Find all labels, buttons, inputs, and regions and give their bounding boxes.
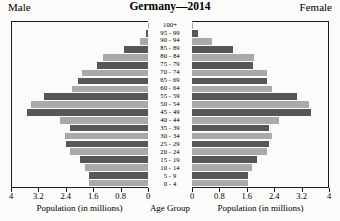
pyramid-row — [12, 101, 148, 109]
age-group-axis: 100+95 - 9990 - 9485 - 8980 - 8475 - 797… — [148, 21, 192, 188]
pyramid-row — [12, 140, 148, 148]
female-bar-10-14 — [192, 164, 252, 171]
axis-tick-label: 1.6 — [88, 191, 99, 201]
pyramid-row — [12, 108, 148, 116]
axis-tick-label: 2.4 — [269, 191, 280, 201]
female-bar-75-79 — [192, 62, 253, 69]
axis-tick-label: 0 — [146, 191, 150, 201]
female-bar-60-64 — [192, 86, 272, 93]
population-pyramid-chart: Male Germany—2014 Female 100+95 - 9990 -… — [0, 0, 340, 221]
male-bar-10-14 — [85, 164, 148, 171]
axis-tick-label: 0.8 — [214, 191, 225, 201]
pyramid-row — [12, 148, 148, 156]
female-bar-35-39 — [192, 125, 269, 132]
chart-title: Germany—2014 — [0, 0, 340, 12]
pyramid-row — [192, 93, 328, 101]
female-bar-15-19 — [192, 156, 257, 163]
male-bar-5-9 — [89, 172, 149, 179]
male-bar-35-39 — [70, 125, 148, 132]
pyramid-row — [192, 69, 328, 77]
pyramid-row — [12, 179, 148, 187]
age-group-label: 80 - 84 — [148, 53, 192, 60]
female-bar-45-49 — [192, 109, 311, 116]
pyramid-row — [12, 38, 148, 46]
axis-tick-label: 3.2 — [33, 191, 44, 201]
pyramid-row — [12, 93, 148, 101]
male-bars — [12, 22, 148, 187]
axis-tick-label: 0.8 — [115, 191, 126, 201]
male-bar-40-44 — [60, 117, 148, 124]
female-bar-90-94 — [192, 38, 212, 45]
age-group-label: 0 - 4 — [148, 181, 192, 188]
pyramid-row — [192, 116, 328, 124]
pyramid-row — [192, 108, 328, 116]
pyramid-row — [192, 140, 328, 148]
male-bar-30-34 — [65, 133, 148, 140]
pyramid-row — [12, 22, 148, 30]
pyramid-row — [12, 77, 148, 85]
pyramid-row — [12, 132, 148, 140]
pyramid-row — [192, 61, 328, 69]
pyramid-row — [12, 124, 148, 132]
pyramid-row — [12, 171, 148, 179]
age-group-label: 65 - 69 — [148, 77, 192, 84]
female-bar-55-59 — [192, 93, 297, 100]
female-bar-85-89 — [192, 46, 233, 53]
age-group-label: 25 - 29 — [148, 141, 192, 148]
axis-tick-label: 4 — [9, 191, 13, 201]
pyramid-row — [12, 163, 148, 171]
age-group-label: 75 - 79 — [148, 61, 192, 68]
pyramid-row — [192, 22, 328, 30]
age-group-label: 30 - 34 — [148, 133, 192, 140]
pyramid-row — [192, 101, 328, 109]
axis-tick-label: 4 — [327, 191, 331, 201]
male-bar-75-79 — [97, 62, 148, 69]
pyramid-row — [192, 30, 328, 38]
male-bar-70-74 — [82, 70, 148, 77]
male-bar-55-59 — [44, 93, 148, 100]
male-panel — [11, 21, 148, 188]
female-legend-label: Female — [300, 1, 332, 13]
male-bar-0-4 — [89, 180, 149, 187]
value-axis: 43.22.41.60.8000.81.62.43.24Population (… — [0, 188, 340, 221]
center-axis-caption: Age Group — [150, 203, 190, 213]
female-bar-70-74 — [192, 70, 267, 77]
pyramid-row — [192, 53, 328, 61]
pyramid-row — [192, 38, 328, 46]
age-group-label: 15 - 19 — [148, 157, 192, 164]
male-bar-85-89 — [124, 46, 148, 53]
age-group-label: 95 - 99 — [148, 30, 192, 37]
male-bar-20-24 — [70, 148, 148, 155]
female-bar-80-84 — [192, 54, 254, 61]
age-group-label: 90 - 94 — [148, 37, 192, 44]
male-bar-50-54 — [31, 101, 148, 108]
pyramid-row — [192, 179, 328, 187]
age-group-label: 50 - 54 — [148, 101, 192, 108]
female-bar-30-34 — [192, 133, 272, 140]
pyramid-row — [12, 116, 148, 124]
female-bar-40-44 — [192, 117, 279, 124]
female-bar-20-24 — [192, 148, 267, 155]
age-group-label: 20 - 24 — [148, 149, 192, 156]
age-group-label: 85 - 89 — [148, 45, 192, 52]
pyramid-row — [192, 156, 328, 164]
age-group-label: 40 - 44 — [148, 117, 192, 124]
female-bar-100plus — [192, 23, 193, 30]
axis-tick-label: 1.6 — [241, 191, 252, 201]
pyramid-row — [12, 69, 148, 77]
axis-tick-label: 3.2 — [296, 191, 307, 201]
pyramid-row — [12, 156, 148, 164]
female-bar-95-99 — [192, 30, 198, 37]
axis-tick-label: 2.4 — [60, 191, 71, 201]
age-group-label: 100+ — [148, 22, 192, 29]
male-bar-80-84 — [103, 54, 148, 61]
female-bar-5-9 — [192, 172, 248, 179]
pyramid-row — [192, 85, 328, 93]
female-bar-50-54 — [192, 101, 309, 108]
male-bar-45-49 — [27, 109, 148, 116]
female-bars — [192, 22, 328, 187]
pyramid-row — [192, 171, 328, 179]
pyramid-row — [192, 124, 328, 132]
male-bar-90-94 — [140, 38, 148, 45]
pyramid-row — [192, 46, 328, 54]
